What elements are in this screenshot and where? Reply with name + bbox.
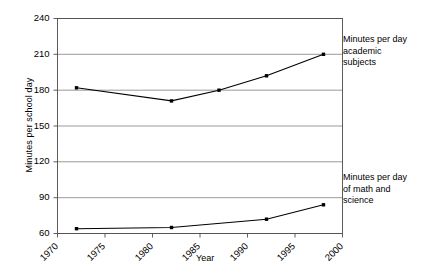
y-tick-label: 240 [20, 13, 50, 23]
data-point-marker [322, 203, 325, 206]
data-point-marker [75, 86, 78, 89]
y-tick-label: 150 [20, 121, 50, 131]
chart-figure: Minutes per school day 60901201501802102… [0, 0, 437, 273]
y-tick-label: 90 [20, 192, 50, 202]
data-point-marker [322, 53, 325, 56]
data-point-marker [265, 218, 268, 221]
data-point-marker [170, 99, 173, 102]
series-line-0 [77, 54, 324, 101]
y-tick-label: 210 [20, 49, 50, 59]
data-point-marker [75, 227, 78, 230]
y-tick-label: 180 [20, 85, 50, 95]
y-tick-label: 120 [20, 156, 50, 166]
data-point-marker [265, 74, 268, 77]
data-point-marker [170, 226, 173, 229]
x-axis-title: Year [196, 253, 214, 263]
data-point-marker [217, 89, 220, 92]
series-annotation-math-science: Minutes per day of math and science [343, 172, 435, 207]
series-annotation-academic: Minutes per day academic subjects [343, 34, 435, 69]
y-tick-label: 60 [20, 228, 50, 238]
series-line-1 [77, 205, 324, 229]
